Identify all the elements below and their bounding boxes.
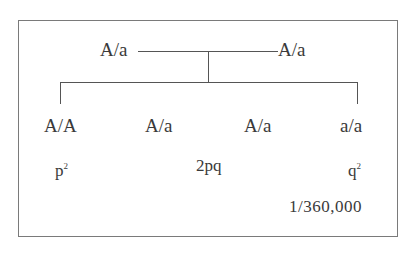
right-offspring-drop	[357, 82, 358, 104]
incidence-value: 1/360,000	[289, 197, 362, 217]
parent-2-genotype: A/a	[278, 40, 305, 60]
descent-line	[208, 51, 209, 83]
offspring-1-genotype: A/A	[44, 116, 77, 136]
offspring-2-genotype: A/a	[145, 116, 172, 136]
frequency-homozygous-recessive: q2	[348, 156, 361, 181]
parent-1-genotype: A/a	[100, 40, 127, 60]
offspring-4-genotype: a/a	[340, 116, 362, 136]
frequency-heterozygous: 2pq	[196, 156, 222, 176]
sibship-line	[60, 82, 358, 83]
frequency-homozygous-dominant: p2	[55, 156, 68, 181]
left-offspring-drop	[60, 82, 61, 104]
offspring-3-genotype: A/a	[244, 116, 271, 136]
